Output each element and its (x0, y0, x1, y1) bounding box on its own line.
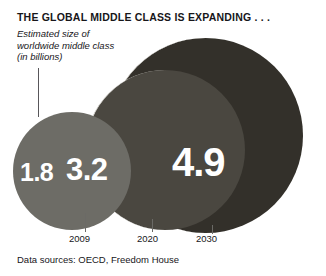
bubble-value-2009: 1.8 (20, 160, 53, 185)
bubble-chart: 1.8 3.2 4.9 (0, 0, 326, 276)
axis-tick-2020 (152, 219, 153, 232)
infographic-root: THE GLOBAL MIDDLE CLASS IS EXPANDING . .… (0, 0, 326, 276)
bubble-value-2030: 4.9 (172, 142, 225, 182)
axis-label-2009: 2009 (69, 233, 90, 244)
axis-label-2020: 2020 (137, 233, 158, 244)
axis-tick-2009 (85, 213, 86, 232)
source-note: Data sources: OECD, Freedom House (17, 254, 179, 265)
bubble-value-2020: 3.2 (66, 154, 108, 185)
axis-label-2030: 2030 (196, 233, 217, 244)
